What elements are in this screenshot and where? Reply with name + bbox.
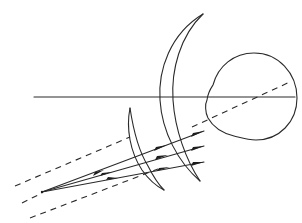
focal-point-icon xyxy=(41,191,43,193)
diagram-canvas xyxy=(0,0,302,223)
arrow-icon-middle-inner xyxy=(155,155,168,160)
dashed-line-middle-stub xyxy=(22,193,42,203)
ray-middle xyxy=(42,146,204,192)
arrow-icon-upper-inner xyxy=(154,145,167,151)
arrow-icon-upper-end xyxy=(191,131,204,137)
optical-diagram: Optical ray diagram: lenses focusing ont… xyxy=(0,0,302,223)
dashed-line-lower xyxy=(30,169,158,218)
ray-lower xyxy=(42,162,204,192)
dashed-line-eye xyxy=(192,81,292,127)
